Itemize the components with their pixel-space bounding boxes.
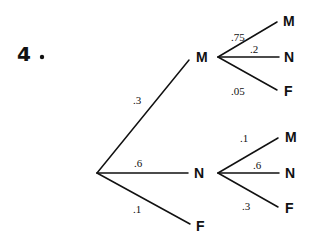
prob-root-M: .3 [133, 94, 142, 106]
leaf-N-N: N [285, 165, 295, 181]
branch-root-to-M [97, 60, 189, 173]
branch-M-to-F [218, 57, 277, 90]
branch-root-to-F [97, 173, 190, 224]
leaf-M-M: M [283, 13, 295, 29]
prob-root-F: .1 [133, 203, 141, 215]
prob-M-M: .75 [231, 31, 245, 43]
prob-root-N: .6 [134, 157, 143, 169]
problem-number: 4 [17, 42, 31, 66]
node-F: F [196, 218, 205, 234]
leaf-M-N: N [284, 49, 294, 65]
probability-tree-diagram: 4 .3 .6 .1 M N F .75 .2 .05 M N F .1 .6 … [0, 0, 310, 240]
leaf-N-M: M [285, 129, 297, 145]
prob-N-F: .3 [242, 200, 251, 212]
prob-M-N: .2 [250, 43, 258, 55]
prob-N-N: .6 [253, 159, 262, 171]
leaf-N-F: F [285, 200, 294, 216]
leaf-M-F: F [284, 83, 293, 99]
branch-M-to-M [218, 22, 277, 57]
node-M: M [196, 49, 208, 65]
node-N: N [194, 165, 204, 181]
prob-N-M: .1 [240, 132, 248, 144]
prob-M-F: .05 [231, 85, 245, 97]
problem-number-dot [40, 55, 44, 59]
